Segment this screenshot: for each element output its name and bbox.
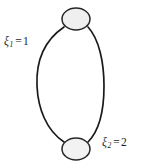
right-edge-label-value: 2 [121,136,127,148]
right-edge-label-equals: = [111,136,121,148]
figure-container: ξ1=1 ξ2=2 [0,0,146,167]
left-edge-arc [37,27,64,142]
right-edge-arc [88,27,104,142]
right-edge-label: ξ2=2 [102,137,127,150]
left-edge-label-equals: = [13,35,23,47]
left-edge-label: ξ1=1 [4,36,29,49]
left-edge-label-value: 1 [23,35,29,47]
top-vertex-node [62,8,90,30]
bottom-vertex-node [62,138,90,160]
